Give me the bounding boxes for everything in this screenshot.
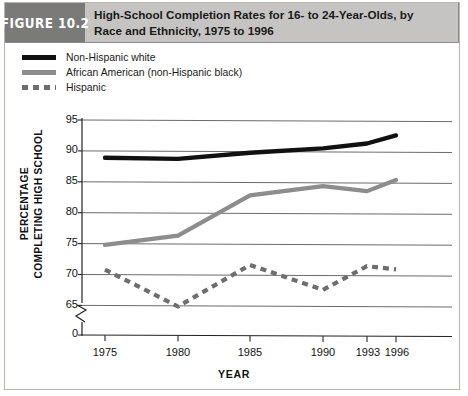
legend-label-hispanic: Hispanic: [66, 82, 106, 93]
legend-swatch-solid-black-icon: [22, 51, 56, 65]
figure-title: High-School Completion Rates for 16- to …: [85, 3, 458, 42]
legend-label-african-american: African American (non-Hispanic black): [66, 67, 242, 78]
figure-title-line-2: Race and Ethnicity, 1975 to 1996: [94, 23, 454, 38]
figure-title-line-1: High-School Completion Rates for 16- to …: [94, 7, 454, 22]
figure-header: FIGURE 10.2 High-School Completion Rates…: [5, 3, 459, 43]
figure-number-label: FIGURE 10.2: [1, 15, 90, 31]
legend-item-african-american: African American (non-Hispanic black): [22, 65, 322, 80]
legend-swatch-solid-gray-icon: [22, 66, 56, 80]
legend-swatch-dashed-gray-icon: [22, 81, 56, 95]
figure-page: FIGURE 10.2 High-School Completion Rates…: [0, 0, 468, 396]
figure-number-badge: FIGURE 10.2: [5, 3, 85, 42]
legend-item-hispanic: Hispanic: [22, 80, 322, 95]
legend-item-non-hispanic-white: Non-Hispanic white: [22, 50, 322, 65]
legend-label-non-hispanic-white: Non-Hispanic white: [66, 52, 156, 63]
chart-legend: Non-Hispanic white African American (non…: [22, 50, 322, 95]
